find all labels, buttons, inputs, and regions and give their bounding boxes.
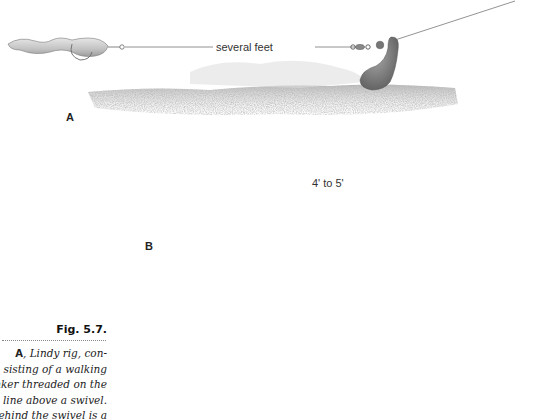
caption-lead: A: [15, 348, 23, 359]
plastic-worm-lure: [8, 38, 124, 60]
caption-line: line above a swivel.: [0, 393, 107, 409]
lake-bottom-a: [88, 61, 458, 115]
caption-line: A, Lindy rig, con-: [0, 346, 107, 362]
panel-label-a: A: [66, 111, 74, 123]
swivel-a: [351, 41, 384, 49]
figure-number: Fig. 5.7.: [56, 323, 107, 336]
distance-label-a: several feet: [213, 41, 276, 53]
caption-line: sinker threaded on the: [0, 377, 107, 393]
panel-a: [8, 1, 515, 115]
panel-label-b: B: [145, 240, 153, 252]
figure-caption: A, Lindy rig, con- sisting of a walking …: [0, 346, 107, 419]
distance-label-b: 4' to 5': [309, 177, 347, 189]
caption-line: sisting of a walking: [0, 362, 107, 378]
caption-line: Behind the swivel is a: [0, 408, 107, 419]
caption-divider: [2, 340, 106, 341]
